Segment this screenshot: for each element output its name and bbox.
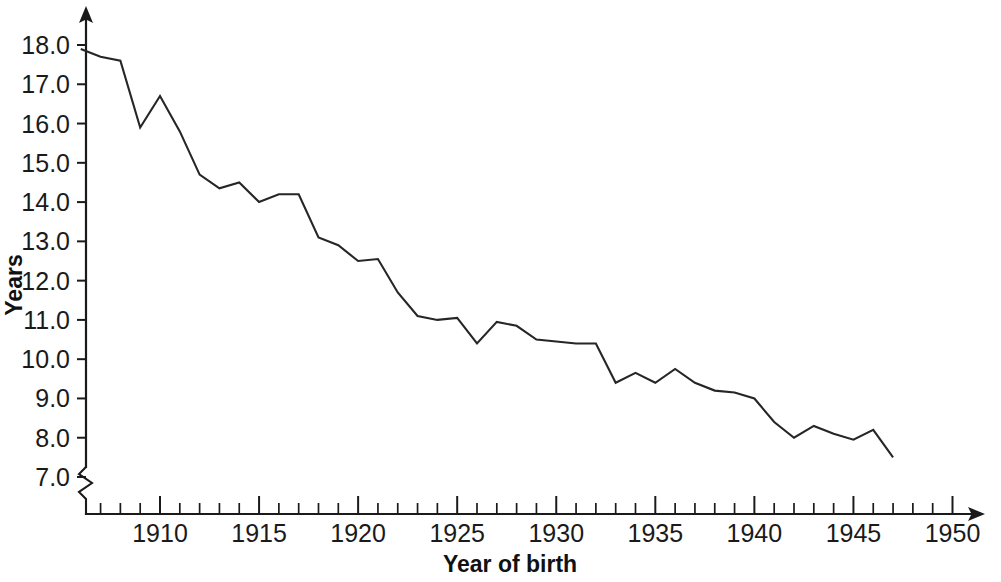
x-tick-mark-group [101,496,953,514]
y-tick-label: 9.0 [35,384,70,412]
x-tick-label: 1910 [132,519,188,547]
line-chart: Years Year of birth 7.08.09.010.011.012.… [0,0,1001,582]
x-tick-label: 1950 [925,519,981,547]
x-tick-label: 1915 [231,519,287,547]
axes-group [79,6,985,521]
y-tick-label: 18.0 [21,31,70,59]
axis-break-icon [79,467,92,514]
x-axis-title-group: Year of birth [443,551,577,577]
data-series-line [81,49,893,457]
x-tick-label: 1940 [727,519,783,547]
x-tick-label: 1930 [528,519,584,547]
y-tick-label: 7.0 [35,463,70,491]
x-tick-label: 1945 [826,519,882,547]
y-tick-label: 13.0 [21,227,70,255]
y-tick-label: 8.0 [35,424,70,452]
y-tick-label: 15.0 [21,149,70,177]
y-tick-label: 12.0 [21,267,70,295]
y-tick-label: 17.0 [21,70,70,98]
chart-canvas: Years Year of birth 7.08.09.010.011.012.… [0,0,1001,582]
y-tick-label-group: 7.08.09.010.011.012.013.014.015.016.017.… [21,31,70,491]
y-tick-mark-group [77,45,86,477]
y-tick-label: 14.0 [21,188,70,216]
x-tick-label: 1935 [628,519,684,547]
x-tick-label: 1920 [330,519,386,547]
y-tick-label: 16.0 [21,110,70,138]
x-tick-label-group: 191019151920192519301935194019451950 [132,519,980,547]
y-tick-label: 11.0 [23,306,70,334]
x-tick-label: 1925 [429,519,485,547]
y-tick-label: 10.0 [21,345,70,373]
x-axis-title: Year of birth [443,551,577,577]
